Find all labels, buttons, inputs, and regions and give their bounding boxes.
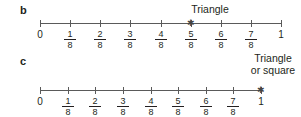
tick-mark [68, 87, 69, 94]
fraction-numerator: 3 [116, 96, 130, 106]
tick-mark [178, 87, 179, 94]
fraction-numerator: 6 [199, 96, 213, 106]
tick-mark [206, 87, 207, 94]
fraction-numerator: 2 [88, 96, 102, 106]
fraction-denominator: 8 [171, 107, 185, 117]
tick-label-whole: 0 [33, 96, 47, 107]
tick-label-fraction: 48 [144, 96, 158, 117]
fraction-denominator: 8 [88, 107, 102, 117]
tick-mark [151, 87, 152, 94]
tick-label-fraction: 18 [61, 96, 75, 117]
tick-label-fraction: 68 [199, 96, 213, 117]
tick-label-fraction: 78 [226, 96, 240, 117]
fraction-denominator: 8 [116, 107, 130, 117]
tick-mark [123, 87, 124, 94]
fraction-denominator: 8 [226, 107, 240, 117]
tick-label-fraction: 38 [116, 96, 130, 117]
fraction-numerator: 1 [61, 96, 75, 106]
star-marker-icon: ✱ [257, 86, 265, 95]
tick-mark [95, 87, 96, 94]
fraction-numerator: 7 [226, 96, 240, 106]
tick-label-whole: 1 [254, 96, 268, 107]
tick-label-fraction: 58 [171, 96, 185, 117]
number-line-c: 0182838485868781✱ [0, 0, 301, 117]
fraction-numerator: 4 [144, 96, 158, 106]
fraction-denominator: 8 [61, 107, 75, 117]
tick-mark [233, 87, 234, 94]
fraction-denominator: 8 [199, 107, 213, 117]
tick-mark [40, 87, 41, 94]
fraction-numerator: 5 [171, 96, 185, 106]
tick-label-fraction: 28 [88, 96, 102, 117]
fraction-denominator: 8 [144, 107, 158, 117]
